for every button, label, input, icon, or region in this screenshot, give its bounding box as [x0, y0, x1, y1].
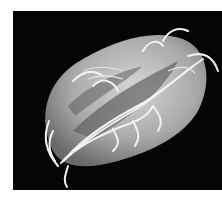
protozoan-cell-illustration: [13, 11, 222, 190]
micrograph-image: [13, 11, 222, 190]
